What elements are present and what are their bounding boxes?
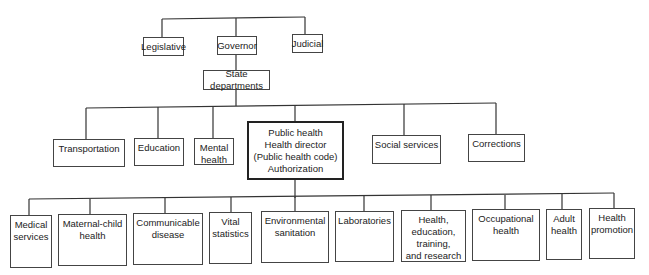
node-health-education: Health, education, training, and researc… — [401, 210, 466, 262]
node-label: Social services — [375, 139, 438, 163]
node-label: Governor — [217, 40, 257, 52]
node-maternal-child-health: Maternal-child health — [58, 214, 127, 266]
connector-departments-bar — [86, 103, 496, 108]
node-social-services: Social services — [372, 135, 441, 164]
node-environmental-sanitation: Environmental sanitation — [261, 211, 329, 263]
connector-top-bar — [162, 17, 305, 19]
node-label: Judicial — [292, 38, 324, 50]
node-legislative: Legislative — [143, 37, 184, 56]
node-label: Legislative — [141, 41, 186, 53]
org-chart: Legislative Governor Judicial State depa… — [0, 0, 649, 275]
node-state-departments: State departments — [203, 70, 270, 90]
node-transportation: Transportation — [53, 139, 125, 167]
node-label: Occupational health — [478, 213, 533, 260]
node-mental-health: Mental health — [194, 138, 234, 165]
node-label: Medical services — [14, 219, 49, 267]
node-label: Communicable disease — [136, 217, 199, 264]
node-vital-statistics: Vital statistics — [209, 212, 252, 264]
node-corrections: Corrections — [468, 134, 525, 162]
node-label: Corrections — [472, 138, 521, 161]
node-communicable-disease: Communicable disease — [133, 213, 203, 265]
node-public-health: Public health Health director (Public he… — [247, 121, 344, 180]
node-governor: Governor — [217, 36, 257, 55]
node-laboratories: Laboratories — [335, 211, 394, 262]
connector-divisions-bar — [29, 193, 614, 199]
node-education: Education — [134, 138, 184, 166]
node-label: Education — [138, 142, 180, 165]
node-label: Laboratories — [338, 215, 391, 261]
node-label: Public health Health director (Public he… — [254, 127, 338, 175]
node-label: State departments — [204, 68, 269, 92]
node-label: Adult health — [551, 213, 577, 259]
node-label: Mental health — [200, 142, 229, 164]
node-label: Health promotion — [591, 212, 633, 258]
node-occupational-health: Occupational health — [472, 209, 540, 261]
node-label: Environmental sanitation — [265, 215, 326, 262]
node-label: Health, education, training, and researc… — [406, 214, 461, 261]
node-medical-services: Medical services — [10, 215, 52, 268]
node-health-promotion: Health promotion — [589, 208, 635, 259]
node-judicial: Judicial — [292, 34, 323, 53]
node-label: Maternal-child health — [63, 218, 123, 265]
node-adult-health: Adult health — [546, 209, 582, 260]
node-label: Transportation — [59, 143, 120, 166]
node-label: Vital statistics — [212, 216, 248, 263]
